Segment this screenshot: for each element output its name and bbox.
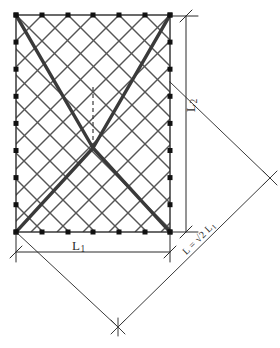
figure-canvas: L1 L2 L = √2 L1 bbox=[0, 0, 280, 348]
diamond-edge-bottom-left bbox=[16, 232, 118, 327]
l2-base: L bbox=[183, 104, 198, 112]
dimension-label-l1: L1 bbox=[72, 238, 86, 254]
dimension-l1 bbox=[10, 234, 176, 262]
diamond-vertex-bottom-tick bbox=[111, 318, 125, 336]
diamond-edge-top-right bbox=[170, 82, 270, 178]
dimension-l2 bbox=[172, 10, 198, 238]
dimension-label-l2: L2 bbox=[183, 98, 199, 112]
bold-diagonal-upper-v bbox=[16, 15, 170, 148]
technical-drawing bbox=[0, 0, 280, 348]
diamond-vertex-right-tick bbox=[263, 171, 277, 185]
l1-subscript: 1 bbox=[80, 244, 85, 254]
l2-subscript: 2 bbox=[189, 98, 199, 103]
